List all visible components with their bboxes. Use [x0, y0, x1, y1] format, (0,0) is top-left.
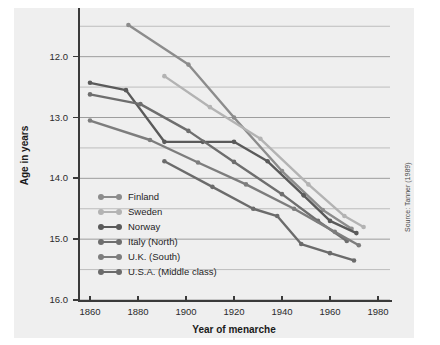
data-point [88, 118, 93, 123]
data-point [208, 105, 213, 110]
y-tick-mark [73, 117, 78, 119]
data-point [186, 62, 191, 67]
data-point [357, 243, 362, 248]
x-tick-label: 1860 [70, 306, 110, 317]
data-point [299, 242, 304, 247]
data-point [88, 81, 93, 86]
data-point [265, 159, 270, 164]
data-point [244, 182, 249, 187]
y-tick-label: 16.0 [34, 295, 68, 305]
source-note: Source: Tanner (1989) [404, 122, 411, 232]
x-tick-mark [89, 296, 91, 301]
x-tick-label: 1900 [166, 306, 206, 317]
legend-item-sweden: Sweden [98, 205, 217, 218]
data-point [126, 23, 131, 28]
legend-label: Sweden [128, 206, 162, 217]
data-point [186, 129, 191, 134]
y-tick-label: 14.0 [34, 173, 68, 183]
legend-swatch-icon [98, 237, 122, 247]
x-tick-mark [281, 296, 283, 301]
data-point [301, 193, 306, 198]
data-point [258, 136, 263, 141]
legend-swatch-icon [98, 192, 122, 202]
chart-figure: 16.015.014.013.012.0 1860188019001920194… [0, 0, 440, 345]
data-point [162, 74, 167, 79]
legend-item-italy-north: Italy (North) [98, 235, 217, 248]
legend-label: Finland [128, 191, 159, 202]
data-point [162, 140, 167, 145]
y-tick-mark [73, 299, 78, 301]
data-point [162, 159, 167, 164]
y-axis-title: Age in years [19, 86, 30, 226]
y-tick-mark [73, 56, 78, 58]
data-point [342, 214, 347, 219]
data-point [275, 214, 280, 219]
data-point [232, 115, 237, 120]
x-axis-title: Year of menarche [78, 324, 390, 335]
data-point [352, 258, 357, 263]
data-point [232, 160, 237, 165]
data-point [148, 138, 153, 143]
legend-swatch-icon [98, 222, 122, 232]
legend-swatch-icon [98, 207, 122, 217]
x-axis-line [78, 300, 392, 302]
chart-legend: FinlandSwedenNorwayItaly (North)U.K. (So… [98, 190, 217, 278]
data-point [138, 102, 143, 107]
data-point [210, 185, 215, 190]
x-tick-label: 1920 [214, 306, 254, 317]
legend-item-u-k-south: U.K. (South) [98, 250, 217, 263]
data-point [333, 230, 338, 235]
data-point [306, 182, 311, 187]
data-point [280, 192, 285, 197]
x-tick-label: 1880 [118, 306, 158, 317]
data-point [251, 206, 256, 211]
legend-label: Italy (North) [128, 236, 178, 247]
data-point [328, 251, 333, 256]
y-tick-label: 12.0 [34, 52, 68, 62]
x-tick-mark [185, 296, 187, 301]
y-tick-mark [73, 177, 78, 179]
legend-item-finland: Finland [98, 190, 217, 203]
x-tick-label: 1940 [262, 306, 302, 317]
x-tick-label: 1960 [310, 306, 350, 317]
data-point [354, 231, 359, 236]
data-point [292, 206, 297, 211]
legend-label: U.K. (South) [128, 251, 180, 262]
x-tick-label: 1980 [358, 306, 398, 317]
y-tick-mark [73, 238, 78, 240]
legend-swatch-icon [98, 267, 122, 277]
data-point [328, 219, 333, 224]
legend-item-u-s-a-middle-class: U.S.A. (Middle class) [98, 265, 217, 278]
x-tick-mark [377, 296, 379, 301]
data-point [124, 88, 129, 93]
x-tick-mark [329, 296, 331, 301]
data-point [361, 225, 366, 230]
legend-swatch-icon [98, 252, 122, 262]
x-tick-mark [233, 296, 235, 301]
legend-label: U.S.A. (Middle class) [128, 266, 217, 277]
legend-item-norway: Norway [98, 220, 217, 233]
x-tick-mark [137, 296, 139, 301]
data-point [196, 160, 201, 165]
y-tick-label: 15.0 [34, 234, 68, 244]
y-tick-label: 13.0 [34, 113, 68, 123]
data-point [232, 140, 237, 145]
y-axis-line [78, 8, 80, 302]
legend-label: Norway [128, 221, 160, 232]
data-point [88, 92, 93, 97]
